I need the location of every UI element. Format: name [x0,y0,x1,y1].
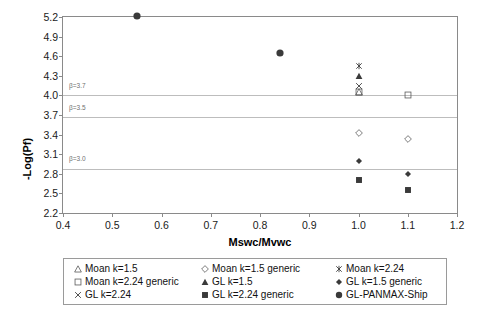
x-axis-tick-mark [162,213,163,217]
data-point-cross [355,82,363,90]
y-axis-tick-mark [59,95,63,96]
legend-item: Moan k=1.5 [71,263,198,274]
legend-marker-filled-diamond-icon [332,278,346,286]
reference-gridline [63,169,457,170]
x-axis-tick-mark [260,213,261,217]
y-axis-tick-mark [59,154,63,155]
legend-item: Moan k=2.24 generic [71,276,198,287]
data-point-asterisk [355,62,363,70]
y-axis-tick-mark [59,115,63,116]
legend-item: Moan k=1.5 generic [198,263,332,274]
legend-item: GL k=2.24 [71,289,198,300]
legend-item: GL-PANMAX-Ship [332,289,428,300]
legend-item: Moan k=2.24 [332,263,404,274]
x-axis-tick-mark [359,213,360,217]
data-point-filled-diamond [404,170,412,178]
y-axis-tick-mark [59,76,63,77]
beta-annotation: β=3.7 [69,82,86,89]
legend-row: GL k=2.24GL k=2.24 genericGL-PANMAX-Ship [71,288,441,301]
legend-label: Moan k=1.5 generic [212,263,300,274]
beta-annotation: β=3.0 [69,155,86,162]
chart-legend: Moan k=1.5Moan k=1.5 genericMoan k=2.24M… [63,258,447,305]
scatter-chart-figure: -Log(Pf) β=3.7β=3.5β=3.02.22.52.83.13.43… [0,0,502,317]
data-point-filled-diamond [355,157,363,165]
data-point-filled-square [404,186,412,194]
legend-marker-open-diamond-icon [198,265,212,273]
reference-gridline [63,117,457,118]
x-axis-label: Mswc/Mvwc [62,236,458,248]
y-axis-tick-mark [59,174,63,175]
legend-item: GL k=2.24 generic [198,289,332,300]
x-axis-tick-mark [309,213,310,217]
y-axis-tick-mark [59,135,63,136]
legend-item: GL k=1.5 generic [332,276,422,287]
data-point-filled-triangle [355,72,363,80]
y-axis-label: -Log(Pf) [21,137,33,179]
data-point-filled-circle [275,48,284,57]
reference-gridline [63,95,457,96]
x-axis-tick-mark [457,213,458,217]
legend-row: Moan k=1.5Moan k=1.5 genericMoan k=2.24 [71,262,441,275]
plot-area: β=3.7β=3.5β=3.02.22.52.83.13.43.74.04.34… [62,16,458,214]
legend-label: GL k=2.24 [85,289,131,300]
legend-marker-filled-square-icon [198,291,212,299]
legend-label: Moan k=2.24 [346,263,404,274]
legend-label: GL-PANMAX-Ship [346,289,428,300]
y-axis-tick-mark [59,56,63,57]
data-point-open-diamond [404,135,412,143]
y-axis-tick-mark [59,193,63,194]
y-axis-tick-mark [59,17,63,18]
legend-label: GL k=1.5 generic [346,276,422,287]
data-point-open-diamond [355,129,363,137]
legend-marker-open-triangle-icon [71,265,85,273]
legend-marker-open-square-icon [71,278,85,286]
legend-label: GL k=2.24 generic [212,289,294,300]
legend-label: Moan k=1.5 [85,263,138,274]
x-axis-tick-mark [211,213,212,217]
x-axis-tick-mark [408,213,409,217]
legend-marker-filled-circle-icon [332,291,346,299]
legend-item: GL k=1.5 [198,276,332,287]
legend-label: Moan k=2.24 generic [85,276,179,287]
legend-marker-filled-triangle-icon [198,278,212,286]
legend-label: GL k=1.5 [212,276,253,287]
legend-marker-asterisk-icon [332,265,346,273]
x-axis-tick-mark [63,213,64,217]
beta-annotation: β=3.5 [69,104,86,111]
legend-row: Moan k=2.24 genericGL k=1.5GL k=1.5 gene… [71,275,441,288]
y-axis-tick-mark [59,37,63,38]
data-point-filled-circle [132,11,141,20]
x-axis-tick-mark [112,213,113,217]
legend-marker-cross-icon [71,291,85,299]
data-point-filled-square [355,176,363,184]
data-point-open-square [404,91,412,99]
